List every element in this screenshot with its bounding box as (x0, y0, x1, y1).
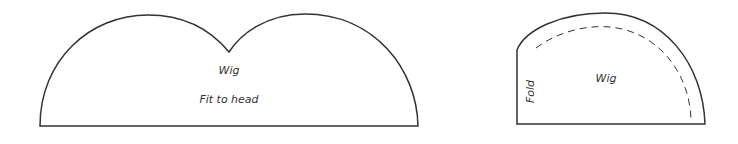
wig-back-outline (517, 13, 705, 124)
fold-label: Fold (524, 79, 537, 103)
fit-to-head-label: Fit to head (199, 93, 259, 106)
wig-front-piece: Wig Fit to head (40, 14, 418, 126)
wig-back-piece: Wig Fold (517, 13, 705, 124)
pattern-diagram: Wig Fit to head Wig Fold (0, 0, 738, 144)
wig-back-label: Wig (596, 72, 617, 85)
wig-front-label: Wig (219, 64, 240, 77)
